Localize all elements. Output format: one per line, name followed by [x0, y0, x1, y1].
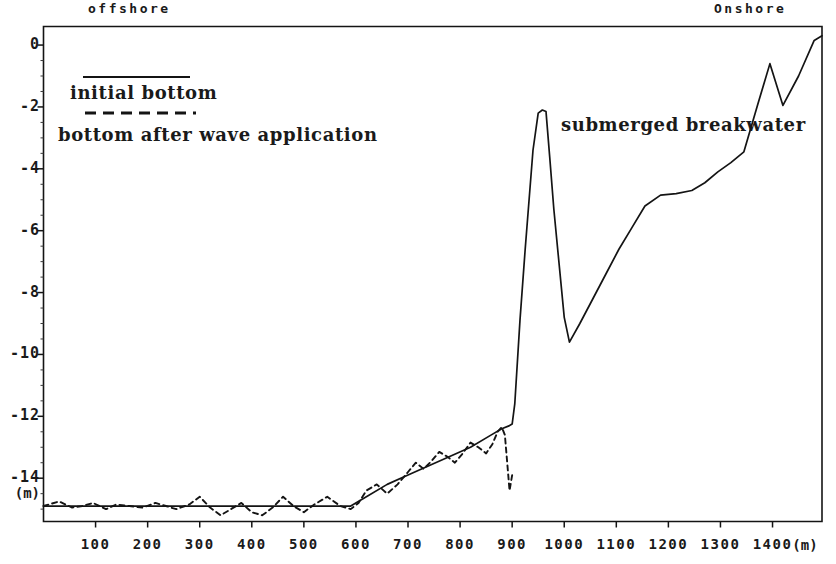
- chart-figure: offshore Onshore initial bottom bottom a…: [0, 0, 836, 564]
- plot-frame: [44, 27, 823, 522]
- plot-canvas: [0, 0, 836, 564]
- axes-frame: [44, 27, 823, 522]
- axis-ticks: [38, 45, 773, 527]
- series-line-1: [44, 427, 513, 515]
- series-line-0: [44, 36, 823, 506]
- legend-line-samples: [83, 77, 196, 113]
- data-series: [44, 36, 823, 516]
